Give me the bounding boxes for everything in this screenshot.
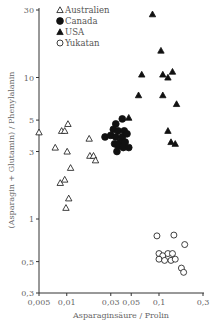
data-point [171,232,177,238]
x-tick-label: 0,05 [122,298,140,307]
data-point [62,176,68,182]
y-tick-label: 1 [29,215,34,224]
data-point [160,92,166,98]
data-point [172,256,178,262]
series-australien [36,121,99,211]
data-point [165,128,171,134]
y-tick-label: 0,5 [21,258,34,267]
x-tick-label: 0,01 [58,298,76,307]
data-point [154,233,160,239]
data-point [181,269,187,275]
data-point [124,130,131,137]
legend-marker-icon [57,18,64,25]
legend-item-australien: Australien [57,5,110,15]
axes: 0,30,51351030 0,0050,010,030,050,10,3 As… [7,6,209,320]
data-point [114,148,121,155]
y-tick-label: 5 [29,116,34,125]
legend: AustralienCanadaUSAYukatan [57,5,110,48]
data-point [160,71,166,77]
series-yukatan [154,232,188,275]
series-usa [126,11,180,146]
x-ticks: 0,0050,010,030,050,10,3 [28,293,210,307]
data-point [52,144,58,150]
legend-item-canada: Canada [57,16,98,26]
y-axis-title: (Asparagin + Glutamin) / Phenylalanin [7,72,16,229]
legend-label: USA [65,27,85,37]
data-point [66,195,72,201]
data-point [135,92,141,98]
data-point [169,251,175,257]
y-tick-label: 3 [29,148,34,157]
x-axis-title: Asparaginsäure / Prolin [72,311,169,320]
y-tick-label: 30 [24,6,34,15]
y-tick-label: 10 [24,74,34,83]
data-point [156,256,162,262]
legend-item-usa: USA [57,27,85,37]
data-point [63,205,69,211]
data-point [65,121,71,127]
legend-label: Australien [64,5,110,15]
x-tick-label: 0,005 [28,298,51,307]
x-tick-label: 0,3 [197,298,210,307]
data-point [125,144,132,151]
legend-marker-icon [57,29,63,35]
data-point [149,11,155,17]
data-point [126,114,132,120]
data-point [36,129,42,135]
data-point [86,135,92,141]
x-tick-label: 0,03 [102,298,120,307]
data-point [158,47,164,53]
legend-label: Yukatan [64,38,100,48]
legend-label: Canada [65,16,98,26]
data-point [182,242,188,248]
legend-marker-icon [57,40,63,46]
legend-item-yukatan: Yukatan [57,38,100,48]
legend-marker-icon [57,7,63,13]
data-point [169,68,175,74]
y-ticks: 0,30,51351030 [21,6,39,298]
data-point [119,115,126,122]
data-point [139,71,145,77]
scatter-chart: 0,30,51351030 0,0050,010,030,050,10,3 As… [0,0,217,332]
x-tick-label: 0,1 [153,298,166,307]
data-point [64,148,70,154]
data-point [162,257,168,263]
data-point [173,101,179,107]
y-tick-label: 0,3 [21,289,34,298]
data-point [67,165,73,171]
series-canada [102,115,133,154]
data-points [36,11,188,275]
